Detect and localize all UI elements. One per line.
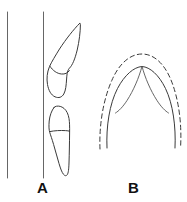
panel-label-a: A [37, 180, 48, 195]
lower-tooth-outline [49, 106, 70, 176]
panel-a-group [8, 12, 81, 178]
upper-tooth-outline [47, 23, 80, 97]
upper-tooth-cervical-line [50, 66, 70, 74]
inner-arch-solid [107, 67, 175, 149]
panel-b-group [100, 54, 181, 149]
lower-tooth-cervical-line [50, 130, 70, 131]
figure-canvas [0, 0, 187, 202]
panel-label-b: B [128, 180, 139, 195]
figure-root: A B [0, 0, 187, 202]
